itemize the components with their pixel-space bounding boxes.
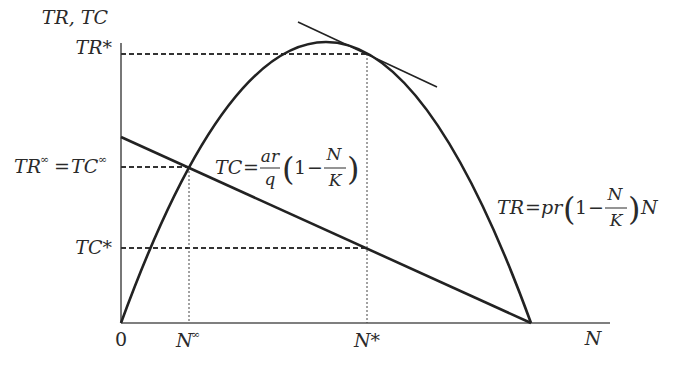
n-inf-sup: ∞ xyxy=(191,328,200,341)
tc-eq-lhs: TC xyxy=(215,156,243,178)
tc-eq-minus: − xyxy=(307,156,323,178)
tr-eq-frac-den: K xyxy=(609,210,624,230)
tc-star-label: TC* xyxy=(75,236,112,258)
tc-inf-base: TC xyxy=(71,155,99,177)
tangent-line xyxy=(298,22,437,87)
tc-inf-sup: ∞ xyxy=(98,153,107,166)
tc-eq-num: ar xyxy=(261,146,280,166)
tr-eq-one: 1 xyxy=(575,196,587,218)
origin-label: 0 xyxy=(115,328,127,350)
tc-line xyxy=(121,137,531,323)
tr-inf-base: TR xyxy=(14,155,41,177)
tc-equation: TC = ar q ( 1 − N K ) xyxy=(215,144,359,190)
tr-inf-eq-tc-inf-label: TR ∞ = TC ∞ xyxy=(14,153,107,177)
tr-eq-tail: N xyxy=(640,196,659,218)
tr-equation: TR = pr ( 1 − N K ) N xyxy=(497,184,659,230)
tr-curve xyxy=(121,42,531,323)
tr-eq-lparen: ( xyxy=(563,190,575,228)
tr-inf-eq: = xyxy=(54,155,70,177)
y-axis-label: TR, TC xyxy=(42,6,109,28)
tr-eq-equals: = xyxy=(525,196,541,218)
tr-star-label: TR* xyxy=(76,36,113,58)
tc-eq-frac-num: N xyxy=(326,144,343,164)
tr-eq-rparen: ) xyxy=(628,190,640,228)
tr-eq-minus: − xyxy=(588,196,604,218)
tr-inf-sup: ∞ xyxy=(40,153,49,166)
tr-eq-frac-num: N xyxy=(607,184,624,204)
tc-eq-rparen: ) xyxy=(347,150,359,188)
x-axis-label: N xyxy=(584,327,603,349)
bioeconomic-diagram: TR, TC N 0 TR* TR ∞ = TC ∞ TC* N ∞ N* TC… xyxy=(0,0,675,366)
tc-eq-one: 1 xyxy=(294,156,306,178)
n-star-label: N* xyxy=(353,329,381,351)
tr-eq-lhs: TR xyxy=(497,196,524,218)
tc-eq-frac-den: K xyxy=(328,170,343,190)
tr-eq-coef: pr xyxy=(541,196,564,218)
tc-eq-lparen: ( xyxy=(282,150,294,188)
tc-eq-den: q xyxy=(265,169,276,189)
n-inf-label: N ∞ xyxy=(175,328,200,351)
tc-eq-equals: = xyxy=(243,156,259,178)
